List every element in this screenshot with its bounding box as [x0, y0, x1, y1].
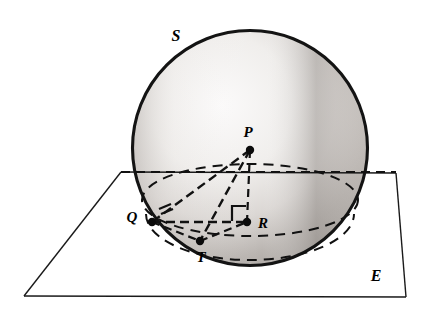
label-point-Q: Q — [127, 209, 138, 225]
label-plane-E: E — [370, 267, 382, 284]
point-Q — [148, 218, 156, 226]
point-P — [246, 146, 254, 154]
label-point-P: P — [243, 124, 253, 140]
diagram-canvas: S P Q T R E — [0, 0, 430, 319]
geometry-figure: S P Q T R E — [0, 0, 430, 319]
label-sphere-S: S — [172, 27, 181, 44]
point-T — [196, 237, 204, 245]
label-point-T: T — [196, 249, 206, 265]
point-R — [243, 218, 251, 226]
label-point-R: R — [257, 215, 268, 231]
